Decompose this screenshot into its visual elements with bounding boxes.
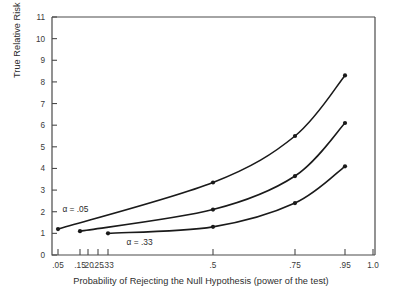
x-tick-label: .33 — [102, 261, 114, 270]
chart-figure: 01234567891011 .05.15.20.25.33.5.75.951.… — [0, 0, 402, 297]
y-tick-label: 10 — [36, 35, 46, 44]
data-point — [211, 180, 215, 184]
data-point — [293, 134, 297, 138]
axis-frame — [52, 17, 375, 255]
x-tick-label: 1.0 — [367, 261, 379, 270]
x-tick-label: .75 — [289, 261, 301, 270]
y-tick-label: 5 — [40, 143, 45, 152]
series-group — [58, 75, 345, 233]
data-point — [211, 225, 215, 229]
data-point-group — [56, 73, 347, 235]
x-tick-label: .05 — [52, 261, 64, 270]
y-tick-label: 7 — [40, 100, 45, 109]
x-tick-label-group: .05.15.20.25.33.5.75.951.0 — [52, 261, 379, 270]
y-tick-label: 8 — [40, 78, 45, 87]
y-tick-group — [52, 17, 57, 255]
annotation-alpha-05: α = .05 — [62, 204, 88, 214]
y-tick-label: 3 — [40, 186, 45, 195]
y-tick-label: 0 — [40, 251, 45, 260]
data-point — [343, 121, 347, 125]
data-point — [343, 164, 347, 168]
x-tick-label: .5 — [210, 261, 217, 270]
plot-canvas: 01234567891011 .05.15.20.25.33.5.75.951.… — [0, 0, 402, 297]
y-tick-label: 1 — [40, 229, 45, 238]
y-tick-label-group: 01234567891011 — [36, 13, 46, 260]
x-axis-title: Probability of Rejecting the Null Hypoth… — [0, 276, 402, 286]
data-point — [78, 229, 82, 233]
annotation-alpha-33: α = .33 — [127, 237, 153, 247]
y-tick-label: 11 — [37, 13, 46, 22]
x-tick-group — [58, 249, 373, 255]
data-point — [56, 227, 60, 231]
y-tick-label: 2 — [40, 208, 45, 217]
annotation-group: α = .05α = .33 — [62, 204, 153, 248]
data-point — [293, 174, 297, 178]
y-tick-label: 4 — [40, 164, 45, 173]
data-point — [106, 231, 110, 235]
series-line — [80, 123, 345, 231]
y-tick-label: 9 — [40, 56, 45, 65]
data-point — [293, 201, 297, 205]
series-line — [58, 75, 345, 229]
y-axis-title: True Relative Risk — [12, 0, 22, 78]
x-tick-label: .95 — [339, 261, 351, 270]
data-point — [211, 207, 215, 211]
axes-group — [52, 17, 375, 255]
data-point — [343, 73, 347, 77]
y-tick-label: 6 — [40, 121, 45, 130]
